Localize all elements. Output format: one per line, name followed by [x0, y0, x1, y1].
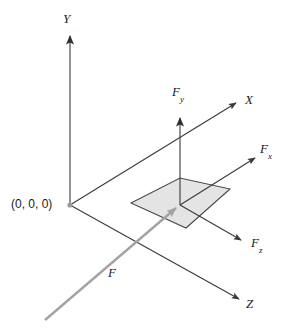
force-z-label: Fz [251, 236, 262, 253]
diagram-canvas [0, 0, 288, 331]
force-label: F [108, 266, 116, 279]
vector-diagram-figure: Y X Z (0, 0, 0) Fy Fx Fz F [0, 0, 288, 331]
force-x-label-base: F [260, 141, 268, 156]
force-vector-F [45, 208, 176, 320]
x-axis-label: X [245, 93, 253, 106]
origin-point-marker [67, 202, 72, 207]
force-z-label-base: F [251, 235, 259, 250]
force-y-label: Fy [172, 85, 184, 102]
force-y-label-subscript: y [180, 94, 184, 104]
force-y-label-base: F [172, 84, 180, 99]
z-axis [70, 205, 239, 299]
origin-label: (0, 0, 0) [11, 198, 52, 210]
force-x-label-subscript: x [268, 151, 272, 161]
force-x-label: Fx [260, 142, 272, 159]
force-z-label-subscript: z [259, 245, 263, 255]
z-axis-label: Z [246, 297, 253, 310]
y-axis-label: Y [63, 12, 70, 25]
